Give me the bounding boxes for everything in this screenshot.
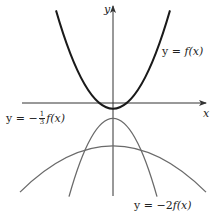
plot-canvas: [0, 0, 216, 215]
label-f-func: f(x): [184, 45, 203, 58]
label-neg-third-func: f(x): [46, 112, 65, 125]
x-axis-label: x: [203, 108, 209, 119]
fraction-one-third: 13: [39, 111, 45, 126]
label-neg-third-prefix: y = −: [6, 112, 38, 125]
label-neg-third-f: y = −13f(x): [6, 111, 65, 126]
label-f: y = f(x): [162, 46, 203, 57]
y-axis-label: y: [104, 4, 110, 15]
label-f-prefix: y =: [162, 45, 184, 58]
label-neg-2f: y = −2f(x): [134, 200, 192, 211]
label-neg-2f-func: f(x): [173, 199, 192, 212]
label-neg-2f-coef: −2: [156, 199, 172, 212]
function-transformation-diagram: y x y = f(x) y = −13f(x) y = −2f(x): [0, 0, 216, 215]
label-neg-2f-prefix: y =: [134, 199, 156, 212]
